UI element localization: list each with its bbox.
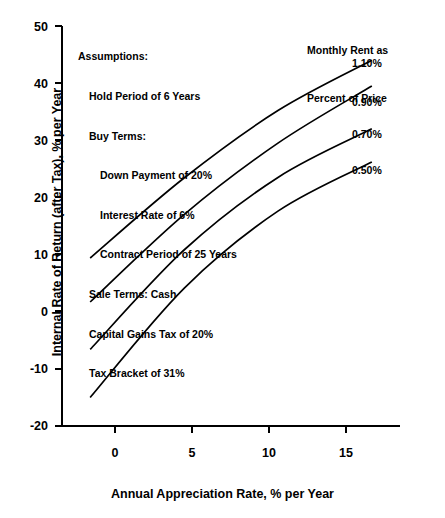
assumptions-heading: Assumptions: — [78, 50, 237, 63]
series-label-050: 0.50% — [352, 164, 382, 176]
series-label-070: 0.70% — [352, 128, 382, 140]
series-label-090: 0.90% — [352, 96, 382, 108]
assumption-line-6: Sale Terms: Cash — [78, 288, 237, 301]
assumptions-annotation: Assumptions: Hold Period of 6 Years Buy … — [78, 24, 237, 407]
assumption-line-1: Hold Period of 6 Years — [78, 90, 237, 103]
assumption-line-2: Buy Terms: — [78, 130, 237, 143]
assumption-line-5: Contract Period of 25 Years — [78, 248, 237, 261]
legend-title-line-1: Monthly Rent as — [307, 42, 388, 58]
y-axis-ticks — [55, 26, 62, 426]
chart-figure: Internal Rate of Return (after Tax), % p… — [0, 0, 445, 518]
assumption-line-3: Down Payment of 20% — [78, 169, 237, 182]
series-label-110: 1.10% — [352, 57, 382, 69]
assumption-line-8: Tax Bracket of 31% — [78, 367, 237, 380]
assumption-line-7: Capital Gains Tax of 20% — [78, 328, 237, 341]
legend-title: Monthly Rent as Percent of Price — [307, 10, 388, 138]
x-axis-ticks — [115, 426, 346, 433]
assumption-line-4: Interest Rate of 6% — [78, 209, 237, 222]
